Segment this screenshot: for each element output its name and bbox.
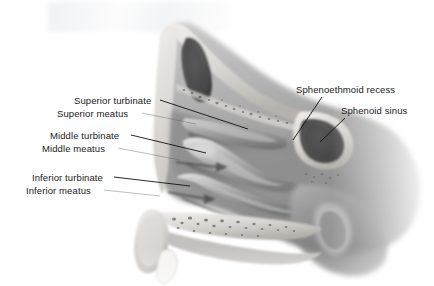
label-inferior-turbinate: Inferior turbinate (32, 172, 103, 183)
nasal-cavity-figure: Superior turbinate Superior meatus Middl… (0, 0, 434, 286)
label-superior-meatus: Superior meatus (57, 108, 128, 119)
edge-fade-bottom (0, 246, 434, 286)
label-middle-meatus: Middle meatus (42, 143, 105, 154)
edge-fade-right (330, 0, 434, 286)
label-middle-turbinate: Middle turbinate (50, 130, 119, 141)
label-sphenoid-sinus: Sphenoid sinus (341, 105, 407, 116)
label-sphenoethmoid-recess: Sphenoethmoid recess (296, 84, 395, 95)
label-inferior-meatus: Inferior meatus (26, 185, 91, 196)
label-superior-turbinate: Superior turbinate (74, 95, 151, 106)
